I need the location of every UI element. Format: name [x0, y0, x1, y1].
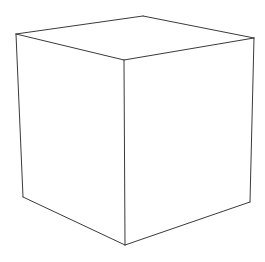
cube-edge-top-right-to-bottom-right: [250, 38, 254, 202]
cube-edge-top-left-to-top-back: [16, 16, 143, 34]
cube-edge-top-back-to-top-right: [143, 16, 254, 38]
cube-edge-top-front-to-top-right: [124, 38, 254, 60]
cube-edge-bottom-left-to-bottom-front: [23, 197, 125, 245]
cube-edge-bottom-front-to-bottom-right: [125, 202, 250, 245]
cube-edge-top-front-to-bottom-front: [124, 60, 125, 245]
cube-edge-top-left-to-bottom-left: [16, 34, 23, 197]
cube-drawing: [0, 0, 265, 262]
cube-edge-top-left-to-top-front: [16, 34, 124, 60]
cube-diagram: [0, 0, 265, 262]
